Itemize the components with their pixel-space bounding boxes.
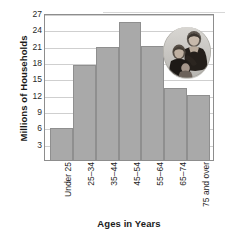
bar-25-34 [73,65,96,160]
y-axis-tick-label: 12 [26,92,42,100]
bar-under-25 [50,128,73,160]
y-axis-tick-label: 21 [26,43,42,51]
x-axis-tick-label: Under 25 [64,162,73,197]
y-axis-tick-labels: 369121518212427 [26,14,42,161]
y-axis-tick-label: 18 [26,59,42,67]
x-axis-tick-label: 75 and over [202,162,211,207]
bar-55-64 [141,46,164,160]
bar-75-and-over [187,95,210,160]
y-axis-tick-label: 24 [26,26,42,34]
bar-45-54 [119,22,142,160]
y-axis-tick-label: 15 [26,75,42,83]
bar-35-44 [96,47,119,160]
family-photo-inset [163,27,211,79]
household-age-bar-chart: Millions of Households 369121518212427 [0,0,226,237]
y-axis-tick-label: 6 [26,124,42,132]
x-axis-title: Ages in Years [44,218,214,229]
plot-area [44,14,214,161]
x-axis-tick-label: 35–44 [110,162,119,186]
y-axis-tick-label: 27 [26,10,42,18]
x-axis-tick-label: 65–74 [179,162,188,186]
x-axis-tick-label: 45–54 [133,162,142,186]
bar-65-74 [164,88,187,160]
x-axis-tick-label: 55–64 [156,162,165,186]
top-edge-artifact [103,12,225,13]
x-axis-tick-label: 25–34 [87,162,96,186]
y-axis-tick-label: 9 [26,108,42,116]
x-axis-tick-labels: Under 2525–3435–4445–5455–6465–7475 and … [44,162,214,214]
y-axis-tick-label: 3 [26,141,42,149]
